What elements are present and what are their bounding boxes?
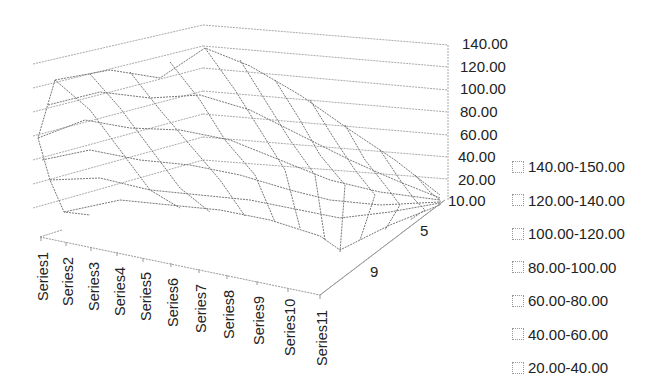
legend-label: 40.00-60.00: [528, 326, 608, 343]
legend-swatch-icon: [512, 161, 524, 173]
legend-swatch-icon: [512, 228, 524, 240]
series-label: Series3: [86, 262, 102, 311]
depth-tick-label: 9: [370, 263, 378, 280]
z-tick-label: 120.00: [460, 59, 506, 74]
series-label: Series5: [138, 272, 154, 321]
series-label: Series7: [193, 284, 209, 333]
legend-swatch-icon: [512, 295, 524, 307]
legend-label: 100.00-120.00: [528, 225, 625, 242]
legend-label: 140.00-150.00: [528, 158, 625, 175]
z-tick-label: 20.00: [458, 172, 496, 187]
series-label: Series8: [221, 290, 237, 339]
series-label: Series1: [35, 252, 51, 301]
legend-label: 60.00-80.00: [528, 292, 608, 309]
series-label: Series11: [314, 310, 330, 366]
legend-item: 140.00-150.00: [512, 150, 625, 184]
legend-item: 100.00-120.00: [512, 217, 625, 251]
surface-wireframe: [38, 48, 440, 252]
series-label: Series10: [282, 299, 298, 356]
legend-item: 60.00-80.00: [512, 284, 625, 318]
z-tick-label: 80.00: [460, 104, 498, 119]
legend-item: 20.00-40.00: [512, 351, 625, 385]
z-tick-label: 100.00: [460, 81, 506, 96]
series-label: Series6: [165, 278, 181, 327]
series-label: Series4: [112, 267, 128, 316]
legend-item: 80.00-100.00: [512, 251, 625, 285]
legend-item: 120.00-140.00: [512, 184, 625, 218]
legend-swatch-icon: [512, 194, 524, 206]
legend-label: 80.00-100.00: [528, 259, 616, 276]
depth-tick-label: 5: [420, 222, 428, 239]
series-label: Series9: [251, 296, 267, 345]
series-label: Series2: [60, 257, 76, 306]
legend-label: 120.00-140.00: [528, 192, 625, 209]
legend-label: 20.00-40.00: [528, 359, 608, 376]
legend-swatch-icon: [512, 328, 524, 340]
legend-swatch-icon: [512, 261, 524, 273]
legend-item: 40.00-60.00: [512, 318, 625, 352]
z-tick-label: 60.00: [460, 127, 498, 142]
legend: 140.00-150.00 120.00-140.00 100.00-120.0…: [512, 150, 625, 385]
z-tick-label: 10.00: [448, 193, 486, 208]
z-tick-label: 40.00: [458, 149, 496, 164]
z-tick-label: 140.00: [462, 36, 508, 51]
legend-swatch-icon: [512, 362, 524, 374]
